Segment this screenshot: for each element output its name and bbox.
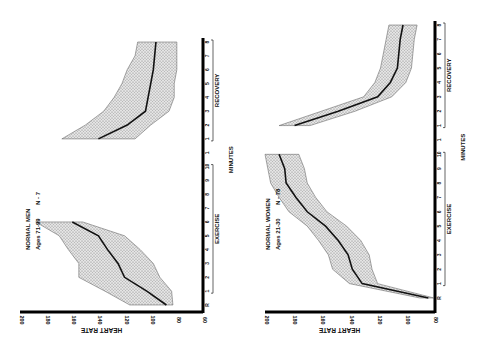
minute-tick-label: 8 bbox=[204, 193, 210, 196]
minute-tick-label: 4 bbox=[204, 96, 210, 99]
hr-tick-label: 160 bbox=[320, 315, 326, 324]
minute-tick-label: 6 bbox=[436, 210, 442, 213]
minute-tick-label: 4 bbox=[436, 81, 442, 84]
minute-tick-label: 6 bbox=[204, 68, 210, 71]
minute-tick-label: 10 bbox=[436, 151, 442, 157]
exercise-label: EXERCISE bbox=[214, 214, 220, 244]
panel-title: NORMAL WOMEN bbox=[265, 198, 271, 250]
panel-subtitle: Ages 21-30 bbox=[275, 218, 281, 250]
recovery-label: RECOVERY bbox=[214, 74, 220, 107]
minute-tick-label: 9 bbox=[436, 167, 442, 170]
minute-tick-label: 6 bbox=[204, 220, 210, 223]
minute-tick-label: 8 bbox=[436, 181, 442, 184]
hr-axis-title: HEART RATE bbox=[80, 327, 122, 334]
minute-tick-label: 4 bbox=[436, 239, 442, 242]
minute-tick-label: 6 bbox=[436, 52, 442, 55]
recovery-range-band bbox=[279, 25, 417, 126]
hr-axis-title: HEART RATE bbox=[318, 327, 360, 334]
exercise-bracket bbox=[211, 165, 213, 294]
minute-tick-label: 1 bbox=[436, 124, 442, 127]
exercise-range-band bbox=[265, 154, 434, 298]
minute-tick-label: 1 bbox=[204, 151, 210, 154]
minute-tick-label: 10 bbox=[204, 164, 210, 170]
minute-tick-label: 8 bbox=[204, 40, 210, 43]
sample-size-label: N - 78 bbox=[275, 188, 281, 205]
exercise-label: EXERCISE bbox=[446, 204, 452, 234]
minute-tick-label: R bbox=[436, 296, 442, 300]
minute-tick-label: 1 bbox=[204, 137, 210, 140]
hr-tick-label: 120 bbox=[377, 315, 383, 324]
recovery-range-band bbox=[62, 42, 177, 139]
hr-tick-label: 60 bbox=[202, 317, 208, 323]
hr-tick-label: 100 bbox=[405, 315, 411, 324]
minute-tick-label: 2 bbox=[204, 123, 210, 126]
minute-tick-label: 1 bbox=[436, 282, 442, 285]
hr-tick-label: 100 bbox=[150, 315, 156, 324]
minute-tick-label: 7 bbox=[204, 54, 210, 57]
exercise-bracket bbox=[443, 152, 445, 285]
minute-tick-label: 3 bbox=[204, 262, 210, 265]
chart-panel-women: 20018016014012010080HEART RATER123456789… bbox=[264, 21, 466, 334]
minute-tick-label: 2 bbox=[436, 268, 442, 271]
exercise-range-band bbox=[36, 222, 173, 305]
minute-tick-label: 7 bbox=[436, 196, 442, 199]
heart-rate-figure: 2001801601401201008060HEART RATER1234567… bbox=[0, 0, 481, 352]
minute-tick-label: 3 bbox=[436, 253, 442, 256]
hr-tick-label: 140 bbox=[97, 315, 103, 324]
minute-tick-label: 7 bbox=[436, 38, 442, 41]
minute-tick-label: 1 bbox=[436, 138, 442, 141]
minute-tick-label: R bbox=[204, 303, 210, 307]
hr-tick-label: 200 bbox=[264, 315, 270, 324]
minute-tick-label: 5 bbox=[204, 234, 210, 237]
hr-tick-label: 180 bbox=[45, 315, 51, 324]
minute-tick-label: 5 bbox=[436, 66, 442, 69]
minute-tick-label: 3 bbox=[204, 110, 210, 113]
hr-tick-label: 120 bbox=[124, 315, 130, 324]
recovery-label: RECOVERY bbox=[446, 59, 452, 92]
minute-tick-label: 2 bbox=[436, 110, 442, 113]
hr-tick-label: 80 bbox=[176, 317, 182, 323]
minutes-label: MINUTES bbox=[460, 134, 466, 161]
hr-tick-label: 80 bbox=[433, 317, 439, 323]
minutes-label: MINUTES bbox=[228, 146, 234, 173]
hr-tick-label: 160 bbox=[71, 315, 77, 324]
minute-tick-label: 5 bbox=[204, 82, 210, 85]
panel-title: NORMAL MEN bbox=[25, 209, 31, 250]
chart-panel-men: 2001801601401201008060HEART RATER1234567… bbox=[19, 38, 234, 334]
minute-tick-label: 8 bbox=[436, 23, 442, 26]
recovery-bracket bbox=[443, 23, 445, 128]
recovery-bracket bbox=[211, 40, 213, 141]
minute-tick-label: 7 bbox=[204, 206, 210, 209]
panel-subtitle: Ages 71-99 bbox=[35, 218, 41, 250]
minute-tick-label: 4 bbox=[204, 248, 210, 251]
minute-tick-label: 1 bbox=[204, 290, 210, 293]
minute-tick-label: 9 bbox=[204, 179, 210, 182]
hr-tick-label: 140 bbox=[349, 315, 355, 324]
minute-tick-label: 5 bbox=[436, 225, 442, 228]
hr-tick-label: 200 bbox=[19, 315, 25, 324]
minute-tick-label: 3 bbox=[436, 95, 442, 98]
sample-size-label: N - 7 bbox=[35, 191, 41, 205]
minute-tick-label: 2 bbox=[204, 276, 210, 279]
hr-tick-label: 180 bbox=[292, 315, 298, 324]
